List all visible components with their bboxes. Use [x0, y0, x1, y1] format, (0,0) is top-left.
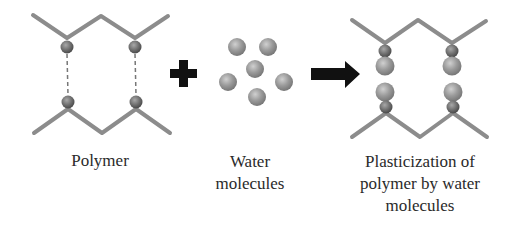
label-line: Polymer — [40, 150, 160, 172]
water-molecule — [444, 83, 463, 102]
water-molecule — [376, 83, 395, 102]
polymer-chain-top — [33, 15, 168, 38]
water-molecules-label: Water molecules — [190, 151, 310, 195]
label-line: polymer by water — [340, 173, 500, 195]
polymer-node — [447, 101, 460, 114]
plasticization-label: Plasticization of polymer by water molec… — [340, 151, 500, 217]
polymer-chain-bottom — [34, 109, 170, 133]
water-molecule — [376, 57, 395, 76]
polymer-chain-top — [352, 20, 486, 43]
water-molecules — [219, 38, 293, 106]
water-molecule — [219, 73, 237, 91]
polymer-node — [129, 41, 142, 54]
polymer-node — [446, 45, 459, 58]
water-molecule — [228, 38, 246, 56]
hydrogen-bond-right — [135, 54, 136, 95]
hydrogen-bond-left — [67, 54, 68, 95]
water-molecule — [246, 60, 264, 78]
plasticization-diagram: Polymer Water molecules Plasticization o… — [0, 0, 520, 237]
water-molecule — [259, 38, 277, 56]
polymer-node — [62, 96, 75, 109]
polymer-chain-bottom — [352, 113, 487, 137]
polymer-node — [130, 96, 143, 109]
polymer-node — [380, 101, 393, 114]
water-molecule — [443, 57, 462, 76]
label-line: Plasticization of — [340, 151, 500, 173]
polymer-node — [379, 45, 392, 58]
water-molecule — [275, 73, 293, 91]
polymer-node — [61, 41, 74, 54]
label-line: molecules — [340, 195, 500, 217]
polymer-structure — [33, 15, 170, 133]
label-line: molecules — [190, 173, 310, 195]
label-line: Water — [190, 151, 310, 173]
right-arrow-icon — [311, 61, 360, 88]
plasticized-polymer-structure — [352, 20, 487, 137]
plus-icon — [170, 60, 197, 87]
water-molecule — [248, 88, 266, 106]
polymer-label: Polymer — [40, 150, 160, 172]
